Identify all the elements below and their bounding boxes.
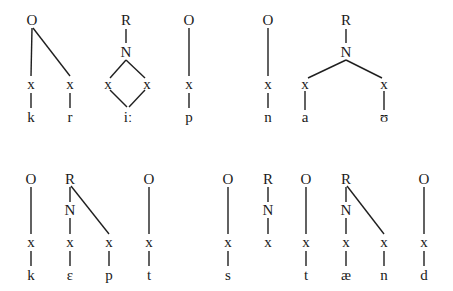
segment-label: t xyxy=(147,268,151,283)
segment-label: n xyxy=(264,110,272,125)
timing-slot: x xyxy=(342,235,350,250)
tree-edge xyxy=(33,28,70,76)
segment-label: a xyxy=(302,110,309,125)
nucleus-node: N xyxy=(341,203,352,218)
tree-edge xyxy=(129,90,145,107)
onset-node: O xyxy=(184,13,195,28)
tree-edge xyxy=(110,90,127,107)
segment-label: k xyxy=(27,110,35,125)
timing-slot: x xyxy=(27,235,35,250)
segment-label: ʊ xyxy=(380,110,388,125)
timing-slot: x xyxy=(302,235,310,250)
onset-node: O xyxy=(301,172,312,187)
segment-label: r xyxy=(68,110,73,125)
rhyme-node: R xyxy=(341,13,351,28)
timing-slot: x xyxy=(145,235,153,250)
segment-label: p xyxy=(185,110,193,125)
timing-slot: x xyxy=(301,77,309,92)
timing-slot: x xyxy=(66,235,74,250)
nucleus-node: N xyxy=(263,203,274,218)
tree-edge xyxy=(308,60,346,78)
onset-node: O xyxy=(27,13,38,28)
segment-label: iː xyxy=(124,110,132,125)
onset-node: O xyxy=(263,13,274,28)
timing-slot: x xyxy=(185,77,193,92)
timing-slot: x xyxy=(224,235,232,250)
timing-slot: x xyxy=(27,77,35,92)
segment-label: k xyxy=(27,268,35,283)
tree-edge xyxy=(31,28,32,76)
rhyme-node: R xyxy=(341,172,351,187)
timing-slot: x xyxy=(380,235,388,250)
onset-node: O xyxy=(223,172,234,187)
tree-edge xyxy=(346,60,382,78)
onset-node: O xyxy=(144,172,155,187)
timing-slot: x xyxy=(420,235,428,250)
segment-label: n xyxy=(380,268,388,283)
nucleus-node: N xyxy=(121,45,132,60)
tree-edge xyxy=(347,186,384,234)
segment-label: æ xyxy=(341,268,351,283)
segment-label: t xyxy=(304,268,308,283)
segment-label: ɛ xyxy=(67,268,73,283)
timing-slot: x xyxy=(264,77,272,92)
rhyme-node: R xyxy=(65,172,75,187)
nucleus-node: N xyxy=(65,203,76,218)
rhyme-node: R xyxy=(121,13,131,28)
timing-slot: x xyxy=(380,77,388,92)
segment-label: p xyxy=(105,268,113,283)
tree-edge xyxy=(110,60,126,78)
segment-label: s xyxy=(225,268,231,283)
timing-slot: x xyxy=(104,77,112,92)
onset-node: O xyxy=(26,172,37,187)
syllable-tree-diagram: OxxkrRNxxiːOxpOxnRNxxaʊOxkRNxxɛpOxtOxsRN… xyxy=(0,0,453,291)
timing-slot: x xyxy=(264,235,272,250)
rhyme-node: R xyxy=(263,172,273,187)
nucleus-node: N xyxy=(341,45,352,60)
tree-edge xyxy=(126,60,145,78)
timing-slot: x xyxy=(143,77,151,92)
timing-slot: x xyxy=(66,77,74,92)
timing-slot: x xyxy=(105,235,113,250)
onset-node: O xyxy=(419,172,430,187)
segment-label: d xyxy=(420,268,428,283)
tree-edge xyxy=(71,186,109,234)
